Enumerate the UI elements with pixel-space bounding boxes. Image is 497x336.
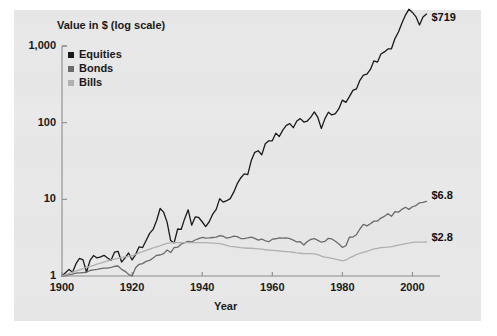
y-axis-ticks [62, 46, 67, 276]
series-line-bills [62, 242, 427, 276]
series-line-bonds [62, 201, 427, 276]
chart-figure: Value in $ (log scale) Year 1,000100101 … [0, 0, 497, 336]
x-tick-label: 1980 [320, 281, 364, 293]
legend-swatch-bonds [68, 66, 74, 72]
x-tick-label: 1940 [180, 281, 224, 293]
y-tick-label: 1,000 [16, 39, 56, 51]
y-tick-label: 100 [16, 116, 56, 128]
legend-label-equities: Equities [79, 49, 122, 60]
x-axis-ticks [62, 272, 412, 276]
x-axis-title: Year [214, 300, 237, 312]
x-tick-label: 1920 [110, 281, 154, 293]
legend-item-bonds: Bonds [68, 62, 122, 75]
legend-item-equities: Equities [68, 48, 122, 61]
annotation-equities-end-value: $719 [431, 11, 455, 23]
annotation-bills-end-value: $2.8 [431, 231, 452, 243]
annotation-bonds-end-value: $6.8 [431, 189, 452, 201]
legend-swatch-bills [68, 80, 74, 86]
legend-swatch-equities [68, 52, 74, 58]
x-tick-label: 1900 [40, 281, 84, 293]
chart-legend: Equities Bonds Bills [68, 48, 122, 90]
legend-item-bills: Bills [68, 76, 122, 89]
x-tick-label: 1960 [250, 281, 294, 293]
legend-label-bonds: Bonds [79, 63, 113, 74]
y-tick-label: 10 [16, 192, 56, 204]
y-tick-label: 1 [16, 269, 56, 281]
legend-label-bills: Bills [79, 77, 102, 88]
x-tick-label: 2000 [390, 281, 434, 293]
y-axis-title: Value in $ (log scale) [57, 19, 165, 31]
